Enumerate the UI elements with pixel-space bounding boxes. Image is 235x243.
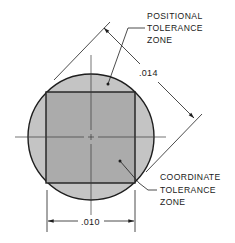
positional-label-line3: ZONE [147, 35, 172, 45]
diagonal-dimension-value: .014 [139, 68, 158, 78]
coordinate-leader-dot [119, 160, 122, 163]
coordinate-label-line3: ZONE [160, 197, 185, 207]
width-dimension-value: .010 [81, 217, 100, 227]
tolerance-zone-diagram: .014 .010 POSITIONAL TOLERANCE ZONE COOR… [0, 0, 235, 243]
coordinate-label-line1: COORDINATE [160, 172, 221, 182]
coordinate-label-line2: TOLERANCE [160, 185, 216, 195]
positional-label-line2: TOLERANCE [147, 23, 203, 33]
positional-label-line1: POSITIONAL [147, 11, 203, 21]
coordinate-tolerance-square [46, 92, 135, 183]
positional-leader-dot [107, 83, 110, 86]
